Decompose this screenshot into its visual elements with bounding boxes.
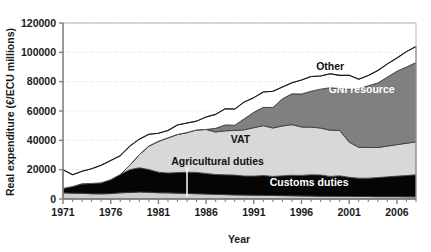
stacked-area-chart: 0200004000060000800001000001200001971197… [0, 0, 431, 252]
y-tick-label: 60000 [27, 105, 56, 117]
chart-figure: 0200004000060000800001000001200001971197… [0, 0, 431, 252]
y-tick-label: 100000 [21, 46, 56, 58]
series-label-other: Other [316, 60, 344, 72]
y-tick-label: 80000 [27, 75, 56, 87]
x-axis-title: Year [228, 233, 250, 245]
y-tick-label: 20000 [27, 163, 56, 175]
series-label-customs-duties: Customs duties [270, 176, 349, 188]
x-tick-label: 1986 [194, 206, 218, 218]
y-tick-label: 0 [50, 193, 56, 205]
series-label-vat: VAT [231, 133, 251, 145]
y-axis-title: Real expenditure (€/ECU millions) [4, 28, 16, 196]
y-tick-label: 40000 [27, 134, 56, 146]
series-label-gni-resource: GNI resource [329, 83, 395, 95]
areas-layer [63, 46, 416, 199]
x-tick-label: 1976 [99, 206, 123, 218]
x-tick-label: 2001 [338, 206, 362, 218]
y-tick-label: 120000 [21, 17, 56, 29]
x-tick-label: 1996 [290, 206, 314, 218]
x-tick-label: 1971 [51, 206, 75, 218]
x-tick-label: 2006 [385, 206, 409, 218]
series-label-agricultural-duties: Agricultural duties [171, 155, 264, 167]
x-tick-label: 1981 [147, 206, 171, 218]
x-tick-label: 1991 [242, 206, 266, 218]
